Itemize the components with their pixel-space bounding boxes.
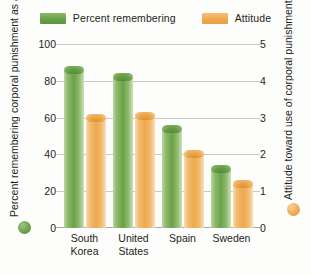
category-label: Spain: [158, 232, 207, 245]
right-axis-tick-1: 1: [260, 186, 266, 197]
bar-green: [211, 165, 231, 228]
category-label-line: States: [109, 245, 158, 258]
bar-body: [135, 116, 155, 228]
left-axis-tick-80: 80: [44, 76, 56, 87]
right-axis-tick-labels: 5 4 3 2 1 0: [260, 44, 284, 228]
right-axis-tick-0: 0: [260, 223, 266, 234]
legend-swatch-orange-icon: [202, 13, 228, 24]
bar-cap: [184, 150, 204, 158]
legend-swatch-green-icon: [40, 13, 66, 24]
right-axis-marker-icon: [287, 203, 300, 216]
bar-orange: [135, 112, 155, 228]
left-axis-tick-0: 0: [50, 223, 56, 234]
bar-orange: [184, 150, 204, 228]
left-axis-tick-40: 40: [44, 149, 56, 160]
bar-group: [64, 44, 106, 228]
bar-cap: [162, 125, 182, 133]
bar-group: [113, 44, 155, 228]
plot-area: [60, 44, 256, 228]
bar-body: [184, 154, 204, 228]
left-axis-title: Percent remembering corporal punishment …: [8, 62, 20, 217]
bar-cap: [86, 114, 106, 122]
chart-legend: Percent remembering Attitude: [0, 8, 311, 28]
category-label-line: Spain: [158, 232, 207, 245]
legend-label-percent-remembering: Percent remembering: [73, 12, 176, 24]
category-label-line: Korea: [60, 245, 109, 258]
right-axis-title: Attitude toward use of corporal punishme…: [282, 80, 294, 200]
bar-body: [86, 118, 106, 228]
category-label: SouthKorea: [60, 232, 109, 258]
left-axis-tick-60: 60: [44, 112, 56, 123]
category-label: UnitedStates: [109, 232, 158, 258]
bar-body: [64, 70, 84, 228]
right-axis-tick-2: 2: [260, 149, 266, 160]
bar-group: [211, 44, 253, 228]
bar-green: [64, 66, 84, 228]
legend-item-attitude: Attitude: [202, 12, 271, 24]
left-axis-tick-labels: 100 80 60 40 20 0: [30, 44, 56, 228]
bar-green: [113, 73, 133, 228]
bar-cap: [135, 112, 155, 120]
left-axis-marker-icon: [18, 221, 31, 234]
category-label: Sweden: [207, 232, 256, 245]
right-axis-tick-4: 4: [260, 76, 266, 87]
bar-body: [162, 129, 182, 228]
category-label-line: United: [109, 232, 158, 245]
bar-cap: [211, 165, 231, 173]
chart-figure: Percent remembering Attitude 100 80 60 4…: [0, 0, 311, 275]
right-axis-tick-3: 3: [260, 112, 266, 123]
bar-cap: [113, 73, 133, 81]
bar-body: [113, 77, 133, 228]
bar-cap: [233, 180, 253, 188]
right-axis-tick-5: 5: [260, 39, 266, 50]
bar-body: [211, 169, 231, 228]
bar-orange: [86, 114, 106, 228]
bar-body: [233, 184, 253, 228]
bar-orange: [233, 180, 253, 228]
bar-green: [162, 125, 182, 228]
legend-label-attitude: Attitude: [235, 12, 271, 24]
category-label-line: Sweden: [207, 232, 256, 245]
bar-group-container: [60, 44, 256, 228]
bar-cap: [64, 66, 84, 74]
category-axis-labels: SouthKoreaUnitedStatesSpainSweden: [60, 232, 256, 272]
legend-item-percent-remembering: Percent remembering: [40, 12, 176, 24]
left-axis-tick-100: 100: [38, 39, 56, 50]
left-axis-tick-20: 20: [44, 186, 56, 197]
bar-group: [162, 44, 204, 228]
category-label-line: South: [60, 232, 109, 245]
